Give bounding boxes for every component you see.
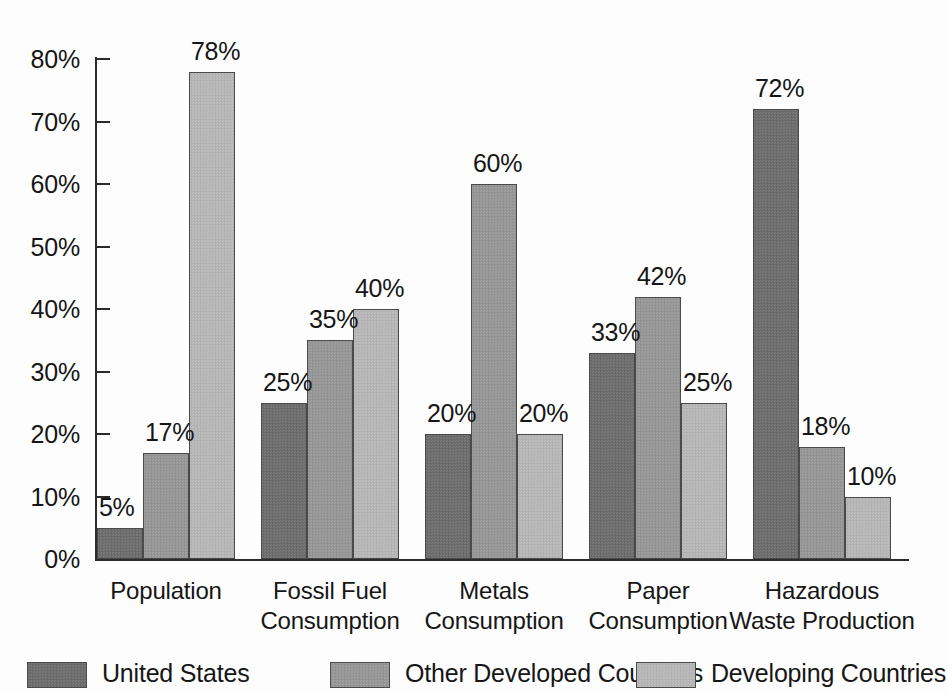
y-axis-tick <box>97 183 110 185</box>
bar <box>635 297 681 560</box>
category-label: PaperConsumption <box>588 576 727 636</box>
bar <box>143 453 189 559</box>
bar-value-label: 25% <box>263 368 312 397</box>
bar-value-label: 18% <box>801 412 850 441</box>
category-label-line: Metals <box>424 576 563 606</box>
y-axis-tick <box>97 246 110 248</box>
category-label-line: Consumption <box>588 606 727 636</box>
category-label-line: Consumption <box>260 606 399 636</box>
y-axis-tick-label: 70% <box>0 107 80 136</box>
category-label: MetalsConsumption <box>424 576 563 636</box>
bar <box>425 434 471 559</box>
category-label-line: Consumption <box>424 606 563 636</box>
bar-value-label: 78% <box>191 37 240 66</box>
bar <box>753 109 799 559</box>
y-axis-tick-label: 50% <box>0 232 80 261</box>
y-axis-tick-label: 40% <box>0 295 80 324</box>
bar-value-label: 20% <box>519 399 568 428</box>
bar-value-label: 42% <box>637 262 686 291</box>
bar <box>799 447 845 560</box>
y-axis-tick-label: 30% <box>0 357 80 386</box>
bar-value-label: 72% <box>755 74 804 103</box>
y-axis-tick <box>97 433 110 435</box>
y-axis-tick <box>97 371 110 373</box>
bar <box>261 403 307 559</box>
bar <box>189 72 235 560</box>
bar <box>307 340 353 559</box>
legend-swatch <box>330 662 390 688</box>
category-label: Population <box>110 576 221 606</box>
bar-value-label: 10% <box>847 462 896 491</box>
legend-label: Developing Countries <box>711 659 946 688</box>
category-label: HazardousWaste Production <box>729 576 914 636</box>
legend-label: Other Developed Countries <box>405 659 703 688</box>
bar-value-label: 25% <box>683 368 732 397</box>
y-axis-tick-label: 20% <box>0 420 80 449</box>
plot-area: 0%10%20%30%40%50%60%70%80% 5%17%78%25%35… <box>0 0 947 600</box>
y-axis-tick-label: 80% <box>0 45 80 74</box>
y-axis-tick-label: 10% <box>0 482 80 511</box>
bar-chart: 0%10%20%30%40%50%60%70%80% 5%17%78%25%35… <box>0 0 947 694</box>
bar <box>353 309 399 559</box>
category-label-line: Fossil Fuel <box>260 576 399 606</box>
bar-value-label: 40% <box>355 274 404 303</box>
bar-value-label: 20% <box>427 399 476 428</box>
category-label-line: Population <box>110 576 221 606</box>
bar <box>517 434 563 559</box>
bar-value-label: 17% <box>145 418 194 447</box>
category-label-line: Paper <box>588 576 727 606</box>
bar-value-label: 33% <box>591 318 640 347</box>
category-label: Fossil FuelConsumption <box>260 576 399 636</box>
bar <box>97 528 143 559</box>
x-axis-line <box>95 559 909 561</box>
category-label-line: Waste Production <box>729 606 914 636</box>
bar-value-label: 5% <box>99 493 135 522</box>
bar <box>589 353 635 559</box>
bar <box>471 184 517 559</box>
y-axis-tick <box>97 308 110 310</box>
legend-swatch <box>27 662 87 688</box>
y-axis-tick-label: 0% <box>0 545 80 574</box>
legend-swatch <box>636 662 696 688</box>
y-axis-tick-label: 60% <box>0 170 80 199</box>
y-axis-tick <box>97 58 110 60</box>
bar <box>845 497 891 560</box>
y-axis-tick <box>97 121 110 123</box>
category-label-line: Hazardous <box>729 576 914 606</box>
bar-value-label: 60% <box>473 149 522 178</box>
legend-label: United States <box>102 659 250 688</box>
bar <box>681 403 727 559</box>
bar-value-label: 35% <box>309 305 358 334</box>
